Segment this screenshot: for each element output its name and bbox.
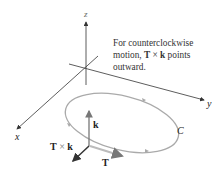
t-cross-k-k: k [67, 141, 73, 152]
t-cross-k-t: T [50, 141, 57, 152]
x-axis [17, 56, 98, 129]
annotation-times: × [150, 50, 160, 60]
x-axis-label: x [15, 132, 19, 142]
annotation-line-3: outward. [113, 61, 223, 73]
k-vector-label: k [93, 120, 99, 130]
annotation-prefix: motion, [113, 50, 144, 60]
t-vector-label: T [102, 158, 109, 168]
t-cross-k-label: T × k [50, 142, 73, 152]
annotation-line-2: motion, T × k points [113, 49, 223, 61]
t-vector [90, 146, 122, 156]
annotation-line-1: For counterclockwise [113, 37, 223, 49]
y-axis-label: y [207, 99, 211, 109]
curve-c-label: C [177, 126, 184, 136]
curve-c [59, 83, 185, 163]
t-cross-k-times: × [57, 141, 68, 152]
annotation-text: For counterclockwise motion, T × k point… [113, 37, 223, 73]
z-axis-label: z [84, 10, 88, 19]
t-cross-k-vector [73, 146, 89, 161]
annotation-suffix: points [165, 50, 190, 60]
diagram-canvas [0, 0, 223, 175]
